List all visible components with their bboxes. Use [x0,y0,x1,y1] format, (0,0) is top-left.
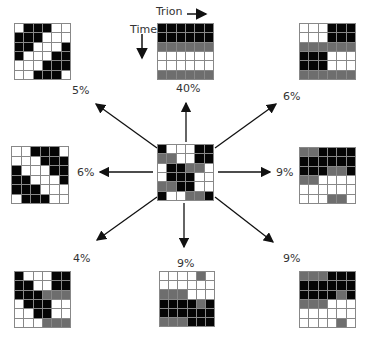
grid-cell [300,291,308,299]
grid-cell [15,309,23,317]
grid-cell [15,300,23,308]
grid-cell [188,272,196,280]
grid-cell [186,61,194,69]
grid-cell [12,166,21,175]
grid-cell [177,164,185,172]
grid-cell [34,300,42,308]
grid-cell [195,164,203,172]
grid-cell [197,300,205,308]
grid-cell [319,24,327,32]
grid-cell [15,281,23,289]
grid-cell [337,185,345,193]
grid-cell [160,318,168,326]
grid-cell [167,33,175,41]
percent-bottom-left: 4% [73,252,90,265]
grid-cell [328,176,336,184]
grid-cell [178,300,186,308]
grid-cell [188,309,196,317]
grid-cell [167,24,175,32]
grid-cell [206,290,214,298]
pattern-grid-center [157,144,214,201]
grid-cell [347,176,355,184]
grid-cell [186,182,194,190]
grid-cell [24,300,32,308]
grid-cell [347,319,355,327]
grid-cell [31,185,40,194]
grid-cell [158,164,166,172]
grid-cell [177,71,185,79]
grid-cell [24,309,32,317]
grid-cell [337,24,345,32]
grid-cell [319,71,327,79]
grid-cell [195,71,203,79]
grid-cell [52,61,60,69]
percent-top-left: 5% [72,84,89,97]
grid-cell [62,272,70,280]
grid-cell [62,24,70,32]
grid-cell [300,52,308,60]
grid-cell [328,319,336,327]
grid-cell [319,157,327,165]
grid-cell [328,61,336,69]
grid-cell [43,319,51,327]
grid-cell [12,195,21,204]
grid-cell [160,309,168,317]
grid-cell [195,52,203,60]
grid-cell [22,157,31,166]
grid-cell [347,195,355,203]
grid-cell [319,148,327,156]
grid-cell [60,185,69,194]
grid-cell [178,309,186,317]
grid-cell [41,147,50,156]
grid-cell [337,309,345,317]
grid-cell [158,182,166,190]
grid-cell [309,176,317,184]
grid-cell [328,195,336,203]
grid-cell [347,24,355,32]
grid-cell [300,195,308,203]
grid-cell [177,24,185,32]
grid-cell [347,148,355,156]
grid-cell [60,147,69,156]
grid-cell [337,43,345,51]
grid-cell [24,291,32,299]
grid-cell [52,319,60,327]
grid-cell [169,281,177,289]
grid-cell [52,300,60,308]
grid-cell [177,61,185,69]
grid-cell [50,147,59,156]
time-label: Time [130,23,157,36]
grid-cell [319,176,327,184]
grid-cell [15,71,23,79]
grid-cell [62,43,70,51]
grid-cell [206,309,214,317]
grid-cell [160,290,168,298]
grid-cell [300,281,308,289]
grid-cell [167,154,175,162]
grid-cell [186,71,194,79]
pattern-grid-top-center [157,23,214,80]
grid-cell [309,319,317,327]
grid-cell [195,154,203,162]
grid-cell [347,300,355,308]
grid-cell [167,43,175,51]
grid-cell [205,61,213,69]
grid-cell [205,52,213,60]
grid-cell [34,33,42,41]
grid-cell [52,52,60,60]
grid-cell [328,157,336,165]
grid-cell [24,319,32,327]
grid-cell [50,176,59,185]
grid-cell [178,290,186,298]
grid-cell [337,157,345,165]
grid-cell [177,43,185,51]
grid-cell [43,61,51,69]
grid-cell [337,148,345,156]
grid-cell [43,33,51,41]
grid-cell [300,43,308,51]
grid-cell [347,71,355,79]
grid-cell [24,272,32,280]
grid-cell [328,309,336,317]
grid-cell [31,166,40,175]
grid-cell [328,52,336,60]
